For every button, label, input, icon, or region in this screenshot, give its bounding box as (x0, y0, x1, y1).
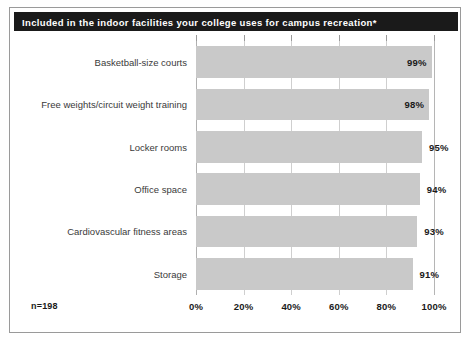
x-tick-mark (291, 35, 292, 41)
bar: 95% (196, 131, 422, 163)
plot-wrapper: 99%Basketball-size courts98%Free weights… (10, 31, 460, 333)
bar-row: 95%Locker rooms (196, 131, 434, 163)
x-tick-label: 40% (281, 301, 301, 312)
gridline-0pct (196, 41, 197, 295)
x-axis: 0%20%40%60%80%100% (196, 301, 434, 315)
bar-value-label: 99% (407, 57, 427, 68)
x-tick-label: 80% (377, 301, 397, 312)
bar: 99% (196, 46, 432, 78)
gridline-60pct (339, 41, 340, 295)
x-tick-mark (339, 35, 340, 41)
bar: 98% (196, 89, 429, 121)
bar-row: 91%Storage (196, 258, 434, 290)
x-tick-mark (434, 35, 435, 41)
bar-value-label: 91% (420, 268, 440, 279)
chart-figure: Included in the indoor facilities your c… (9, 7, 461, 333)
sample-size-note: n=198 (31, 301, 58, 311)
bar: 93% (196, 216, 417, 248)
page-title: Included in the indoor facilities your c… (22, 16, 377, 27)
x-tick-mark (244, 35, 245, 41)
bar-value-label: 94% (427, 184, 447, 195)
category-label: Storage (154, 268, 187, 279)
gridline-80pct (386, 41, 387, 295)
category-label: Basketball-size courts (95, 57, 187, 68)
bar-value-label: 95% (429, 141, 449, 152)
category-label: Cardiovascular fitness areas (67, 226, 187, 237)
bar: 91% (196, 258, 413, 290)
x-tick-label: 0% (189, 301, 203, 312)
category-label: Office space (134, 184, 187, 195)
plot-area: 99%Basketball-size courts98%Free weights… (196, 41, 434, 295)
x-tick-label: 20% (234, 301, 254, 312)
bar-value-label: 98% (405, 99, 425, 110)
bar-row: 94%Office space (196, 173, 434, 205)
bar-value-label: 93% (424, 226, 444, 237)
bar-row: 98%Free weights/circuit weight training (196, 89, 434, 121)
gridline-20pct (244, 41, 245, 295)
category-label: Free weights/circuit weight training (41, 99, 187, 110)
gridline-100pct (434, 41, 435, 295)
bar-row: 99%Basketball-size courts (196, 46, 434, 78)
category-label: Locker rooms (129, 141, 187, 152)
x-tick-label: 60% (329, 301, 349, 312)
x-tick-label: 100% (421, 301, 446, 312)
bar: 94% (196, 173, 420, 205)
chart-title-bar: Included in the indoor facilities your c… (14, 12, 458, 31)
gridline-40pct (291, 41, 292, 295)
x-tick-mark (386, 35, 387, 41)
x-tick-mark (196, 35, 197, 41)
bar-row: 93%Cardiovascular fitness areas (196, 216, 434, 248)
